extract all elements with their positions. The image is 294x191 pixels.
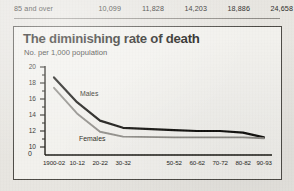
table-strip: 85 and over 10,099 11,828 14,203 18,886 … (0, 0, 294, 24)
table-cell-1: 10,099 (78, 4, 121, 13)
chart-panel: The diminishing rate of death No. per 1,… (13, 26, 282, 180)
y-axis-ticks (40, 67, 45, 147)
x-axis-tick-label: 20-22 (93, 159, 108, 166)
series-label-females: Females (79, 135, 105, 142)
chart-series-layer (54, 77, 264, 138)
table-bottom-rule (14, 18, 280, 19)
x-axis-tick-label: 80-82 (236, 159, 251, 166)
table-cell-5: 24,658 (250, 4, 293, 13)
y-axis-break-symbol: 0 (28, 150, 32, 157)
y-axis-tick-label: 12 (22, 127, 36, 134)
x-axis-tick-label: 70-72 (213, 159, 228, 166)
y-axis-tick-label: 16 (22, 95, 36, 102)
y-axis-tick-label: 14 (22, 111, 36, 118)
y-axis-tick-label: 18 (22, 79, 36, 86)
x-axis-tick-label: 90-93 (257, 159, 272, 166)
x-axis-tick-label: 1900-02 (43, 159, 65, 166)
y-axis-tick-label: 10 (22, 143, 36, 150)
table-row: 85 and over 10,099 11,828 14,203 18,886 … (0, 0, 294, 16)
table-cell-2: 11,828 (121, 4, 164, 13)
x-axis-tick-label: 30-32 (116, 159, 131, 166)
series-line-males (54, 77, 264, 137)
table-cell-4: 18,886 (207, 4, 250, 13)
series-label-males: Males (80, 90, 98, 97)
x-axis-tick-label: 10-12 (70, 159, 85, 166)
x-axis-tick-label: 50-52 (167, 159, 182, 166)
x-axis-tick-label: 60-62 (190, 159, 205, 166)
table-cell-3: 14,203 (164, 4, 207, 13)
chart-plot-area: 101214161820 1900-0210-1220-2230-3250-52… (14, 27, 283, 181)
y-axis-tick-label: 20 (22, 63, 36, 70)
table-row-label: 85 and over (0, 4, 78, 13)
chart-svg (14, 27, 283, 181)
